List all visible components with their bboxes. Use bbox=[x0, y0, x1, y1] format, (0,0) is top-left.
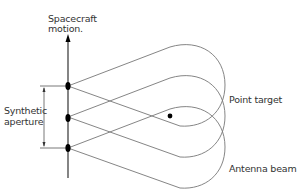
point-target-dot bbox=[168, 114, 173, 119]
dimension-arrow-up-icon bbox=[43, 87, 46, 92]
antenna-beam-1 bbox=[68, 45, 225, 127]
synthetic-aperture-line2: aperture bbox=[4, 117, 43, 127]
spacecraft-position-2 bbox=[65, 114, 70, 122]
synthetic-aperture-line1: Synthetic bbox=[4, 106, 47, 116]
point-target-label: Point target bbox=[229, 95, 282, 105]
antenna-beam-2 bbox=[68, 76, 225, 158]
motion-arrow-icon bbox=[66, 34, 71, 42]
spacecraft-position-3 bbox=[65, 144, 70, 152]
antenna-beam-3 bbox=[68, 107, 225, 189]
dimension-arrow-down-icon bbox=[43, 142, 46, 147]
spacecraft-label-line2: motion. bbox=[48, 24, 83, 34]
spacecraft-position-1 bbox=[65, 82, 70, 90]
antenna-beam-label: Antenna beam bbox=[229, 164, 297, 174]
